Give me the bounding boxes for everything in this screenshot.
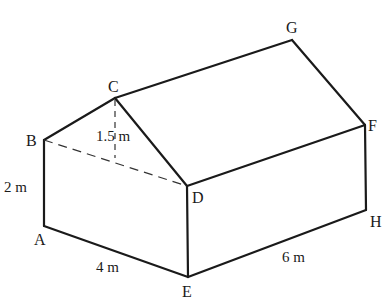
vertex-label-F: F bbox=[368, 117, 377, 134]
edge-CG bbox=[115, 40, 292, 98]
house-prism-diagram: A B C D E F G H 2 m 1.5 m 4 m 6 m bbox=[0, 0, 388, 299]
edge-GF bbox=[292, 40, 365, 125]
vertex-label-G: G bbox=[286, 19, 298, 36]
vertex-label-A: A bbox=[34, 231, 46, 248]
edge-FH bbox=[365, 125, 366, 210]
vertex-label-H: H bbox=[370, 213, 382, 230]
vertex-label-D: D bbox=[192, 189, 204, 206]
vertex-label-B: B bbox=[26, 132, 37, 149]
edge-DE bbox=[187, 186, 188, 277]
vertex-label-E: E bbox=[182, 283, 192, 299]
edge-DF bbox=[187, 125, 365, 186]
dimension-width-AE: 4 m bbox=[96, 259, 119, 275]
dimension-wall-height: 2 m bbox=[4, 179, 27, 195]
vertex-label-C: C bbox=[108, 78, 119, 95]
dimension-length-EH: 6 m bbox=[282, 249, 305, 265]
dimension-roof-height: 1.5 m bbox=[96, 128, 131, 144]
edge-EH bbox=[188, 210, 366, 277]
